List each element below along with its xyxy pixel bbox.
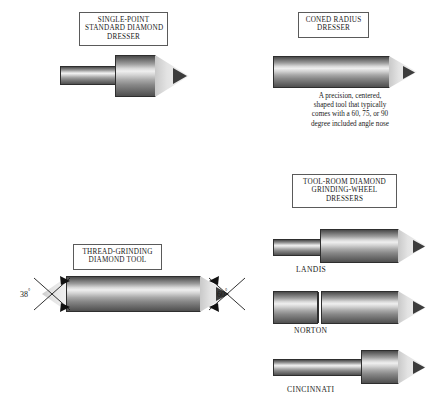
shank-segment: [60, 66, 116, 85]
shank-segment: [273, 239, 321, 256]
head-segment: [361, 350, 399, 384]
tool-norton: [273, 291, 433, 324]
tool-cincinnati: [273, 350, 433, 384]
body-segment: [273, 56, 390, 88]
label-cincinnati: CINCINNATI: [287, 385, 334, 394]
caption-line: THREAD-GRINDING: [79, 248, 156, 256]
description-line: comes with a 60, 75, or 90: [276, 110, 424, 119]
shank-segment: [273, 359, 362, 376]
description-coned-radius-dresser: A precision, centered, shaped tool that …: [276, 92, 424, 129]
caption-line: CONED RADIUS: [304, 16, 363, 24]
diamond-tip-icon: [173, 68, 187, 84]
caption-box-tool-room-dressers: TOOL-ROOM DIAMOND GRINDING-WHEEL DRESSER…: [292, 174, 397, 208]
caption-line: SINGLE-POINT: [85, 16, 162, 24]
diamond-tip-icon: [413, 301, 425, 314]
angle-arrows-right: [205, 272, 249, 316]
angle-arrows-left: [30, 272, 74, 316]
caption-line: DRESSER: [304, 24, 363, 32]
caption-line: DRESSERS: [298, 195, 391, 203]
description-line: degree included angle nose: [276, 120, 424, 129]
description-line: shaped tool that typically: [276, 101, 424, 110]
caption-line: GRINDING-WHEEL: [298, 186, 391, 194]
head-segment: [115, 55, 156, 97]
caption-line: DIAMOND TOOL: [79, 256, 156, 264]
body-segment: [320, 229, 399, 263]
caption-box-thread-grinding-tool: THREAD-GRINDING DIAMOND TOOL: [73, 244, 162, 270]
tool-coned-radius-dresser: [273, 56, 425, 88]
caption-line: TOOL-ROOM DIAMOND: [298, 178, 391, 186]
tool-landis: [273, 229, 433, 263]
caption-box-single-point-dresser: SINGLE-POINT STANDARD DIAMOND DRESSER: [79, 12, 168, 46]
diagram-canvas: SINGLE-POINT STANDARD DIAMOND DRESSER CO…: [0, 0, 438, 405]
body-segment-rear: [273, 291, 318, 324]
caption-box-coned-radius-dresser: CONED RADIUS DRESSER: [298, 12, 369, 38]
body-segment: [66, 276, 201, 312]
label-landis: LANDIS: [296, 265, 326, 274]
label-norton: NORTON: [294, 326, 327, 335]
caption-line: STANDARD DIAMOND: [85, 24, 162, 32]
caption-line: DRESSER: [85, 33, 162, 41]
description-line: A precision, centered,: [276, 92, 424, 101]
body-segment-front: [321, 291, 399, 324]
angle-value: 38: [20, 290, 28, 299]
tool-single-point-dresser: [60, 55, 185, 97]
angle-label-left: 38°: [20, 288, 30, 299]
